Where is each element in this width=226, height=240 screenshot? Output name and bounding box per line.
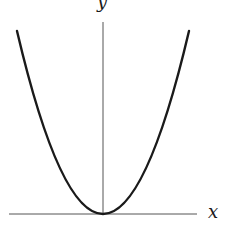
y-axis-label: y (97, 0, 107, 11)
x-axis-label: x (208, 203, 218, 221)
parabola-figure: y x (0, 0, 226, 240)
plot-canvas (0, 0, 226, 240)
